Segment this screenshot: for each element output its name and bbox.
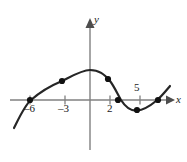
x-tick-label-minus-6: –6 <box>24 103 35 114</box>
marked-points-group <box>27 76 161 113</box>
function-curve <box>14 70 170 128</box>
point-near-minus-3 <box>59 78 65 84</box>
x-tick-label-5: 5 <box>134 82 140 93</box>
point-descending <box>105 76 111 82</box>
x-axis-arrowhead <box>166 96 175 105</box>
point-root-6 <box>155 97 161 103</box>
x-tick-label-2: 2 <box>107 103 113 114</box>
cubic-function-graph: –6 –3 2 5 x y <box>0 0 187 162</box>
x-axis-label: x <box>176 94 181 105</box>
y-axis-label: y <box>94 14 99 25</box>
x-tick-label-minus-3: –3 <box>58 103 69 114</box>
point-local-minimum <box>134 107 140 113</box>
point-root-2 <box>115 97 121 103</box>
